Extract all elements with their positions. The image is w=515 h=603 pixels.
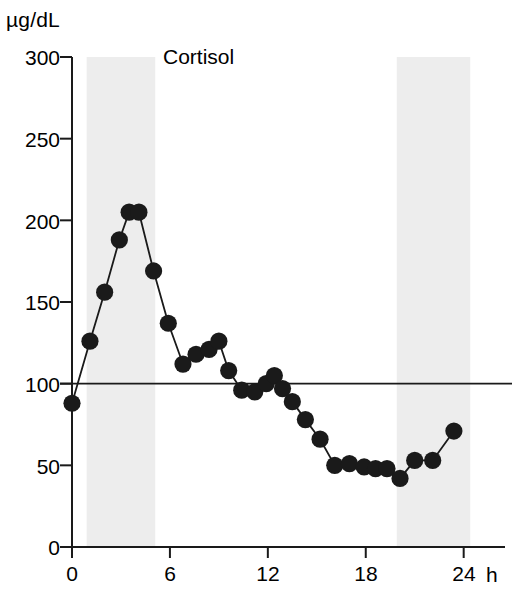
plot-area [0, 0, 515, 603]
data-point [145, 262, 162, 279]
data-point [63, 395, 80, 412]
data-point [130, 204, 147, 221]
shaded-band-0 [87, 57, 156, 547]
data-point [96, 284, 113, 301]
data-point [297, 411, 314, 428]
data-point [424, 452, 441, 469]
data-point [311, 431, 328, 448]
data-point [81, 333, 98, 350]
data-point [326, 457, 343, 474]
data-point [210, 333, 227, 350]
shaded-band-1 [397, 57, 470, 547]
data-point [111, 231, 128, 248]
cortisol-chart-figure: µg/dL Cortisol h 300 250 200 150 100 50 … [0, 0, 515, 603]
data-point [160, 315, 177, 332]
data-point [220, 362, 237, 379]
data-point [406, 452, 423, 469]
data-point [341, 455, 358, 472]
data-point [284, 393, 301, 410]
shaded-bands-group [87, 57, 471, 547]
data-point [445, 422, 462, 439]
data-point [391, 470, 408, 487]
